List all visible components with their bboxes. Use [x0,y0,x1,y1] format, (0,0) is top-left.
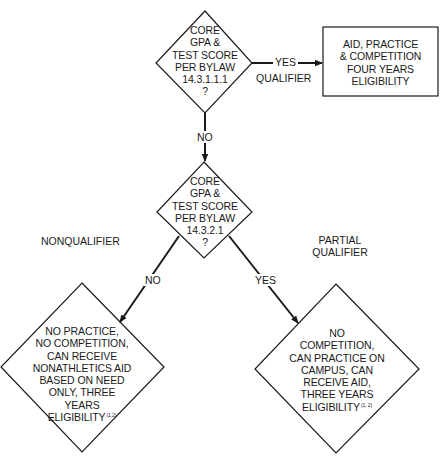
decision-2-text: CORE GPA & TEST SCORE PER BYLAW 14.3.2.1… [156,175,254,249]
decision-2-line: ? [156,236,254,248]
outcome-nonqualifier-line: ONLY, THREE [22,386,142,398]
decision-1-line: TEST SCORE [156,49,254,61]
qualifier-label: QUALIFIER [256,72,311,84]
outcome-partial-line-last: ELIGIBILITY(1, 2) [276,401,398,413]
outcome-qualifier-line: FOUR YEARS [323,63,438,75]
footnote-marker: (1,2) [107,412,117,418]
outcome-nonqualifier-line: NO PRACTICE, [22,325,142,337]
outcome-partial-qualifier-text: NO COMPETITION, CAN PRACTICE ON CAMPUS, … [276,327,398,413]
decision-2-line: CORE [156,175,254,187]
outcome-nonqualifier-line: BASED ON NEED [22,374,142,386]
edge-d1-yes-label: YES [273,56,298,68]
outcome-qualifier-line: ELIGIBILITY [323,75,438,87]
decision-1-line: PER BYLAW [156,61,254,73]
outcome-partial-line: CAN PRACTICE ON [276,352,398,364]
decision-2-line: TEST SCORE [156,200,254,212]
outcome-nonqualifier-line: CAN RECEIVE [22,350,142,362]
partial-qualifier-label-line2: QUALIFIER [305,246,375,258]
outcome-nonqualifier-line-last: ELIGIBILITY(1,2) [22,411,142,423]
edge-d2-no-label: NO [144,274,162,286]
decision-2-line: GPA & [156,187,254,199]
decision-1-line: ? [156,85,254,97]
outcome-partial-line: COMPETITION, [276,339,398,351]
decision-1-text: CORE GPA & TEST SCORE PER BYLAW 14.3.1.1… [156,24,254,98]
outcome-partial-line: RECEIVE AID, [276,376,398,388]
outcome-partial-eligibility: ELIGIBILITY [302,401,360,413]
decision-1-line: 14.3.1.1.1 [156,73,254,85]
decision-2-line: 14.3.2.1 [156,224,254,236]
footnote-marker: (1, 2) [361,402,372,408]
partial-qualifier-label-line1: PARTIAL [305,234,375,246]
decision-1-line: CORE [156,24,254,36]
edge-d1-no-label: NO [196,131,214,143]
outcome-nonqualifier-text: NO PRACTICE, NO COMPETITION, CAN RECEIVE… [22,325,142,423]
outcome-nonqualifier-line: NO COMPETITION, [22,337,142,349]
decision-1-line: GPA & [156,36,254,48]
edge-d2-yes-label: YES [254,274,277,286]
outcome-qualifier-text: AID, PRACTICE & COMPETITION FOUR YEARS E… [323,38,438,87]
decision-2-line: PER BYLAW [156,212,254,224]
outcome-nonqualifier-eligibility: ELIGIBILITY [48,411,106,423]
outcome-partial-line: THREE YEARS [276,388,398,400]
outcome-partial-line: NO [276,327,398,339]
outcome-nonqualifier-line: NONATHLETICS AID [22,362,142,374]
nonqualifier-label: NONQUALIFIER [41,235,120,247]
outcome-qualifier-line: AID, PRACTICE [323,38,438,50]
outcome-partial-line: CAMPUS, CAN [276,364,398,376]
partial-qualifier-label: PARTIAL QUALIFIER [305,234,375,259]
outcome-qualifier-line: & COMPETITION [323,50,438,62]
outcome-nonqualifier-line: YEARS [22,399,142,411]
